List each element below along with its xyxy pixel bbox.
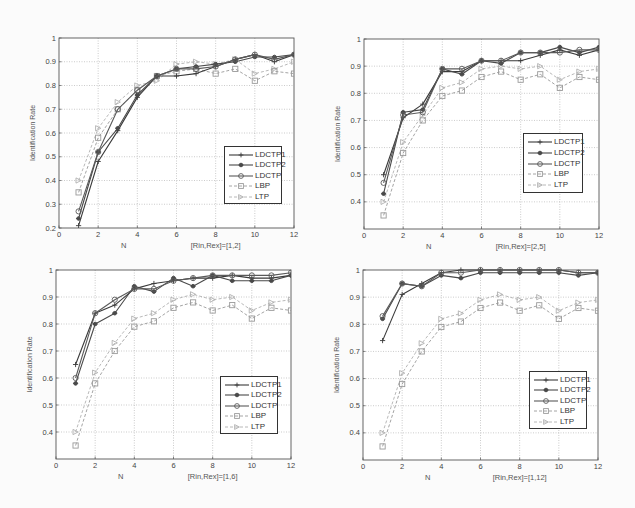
svg-text:6: 6 <box>479 231 483 240</box>
legend-label: LTP <box>251 421 265 433</box>
svg-text:10: 10 <box>251 230 259 239</box>
y-axis-label: Identification Rate <box>333 337 340 393</box>
svg-text:0: 0 <box>362 231 366 240</box>
chart-subtitle: [Rin,Rex]=[1,6] <box>188 472 238 481</box>
svg-text:0.7: 0.7 <box>351 116 361 125</box>
svg-text:0.5: 0.5 <box>351 170 361 179</box>
svg-text:10: 10 <box>556 231 564 240</box>
svg-text:4: 4 <box>135 230 139 239</box>
svg-text:0.5: 0.5 <box>350 401 360 410</box>
legend-item-ltp: LTP <box>530 416 586 428</box>
svg-text:8: 8 <box>518 462 522 471</box>
svg-text:4: 4 <box>132 461 136 470</box>
svg-text:2: 2 <box>401 231 405 240</box>
svg-text:0: 0 <box>54 461 58 470</box>
svg-text:0.2: 0.2 <box>46 224 56 233</box>
chart-subtitle: [Rin,Rex]=[1,12] <box>493 473 547 482</box>
legend-label: LTP <box>554 179 568 191</box>
triangle-marker-icon <box>532 416 560 428</box>
svg-text:12: 12 <box>594 462 602 471</box>
svg-text:0.8: 0.8 <box>351 89 361 98</box>
svg-text:2: 2 <box>93 461 97 470</box>
svg-text:2: 2 <box>96 230 100 239</box>
chart-panel-1: 0246810120.20.30.40.50.60.70.80.91Identi… <box>0 0 317 254</box>
chart-panel-2: 0246810120.40.50.60.70.80.91Identificati… <box>317 0 634 254</box>
svg-text:0.5: 0.5 <box>46 152 56 161</box>
chart-legend: LDCTP1LDCTP2LDCTPLBPLTP <box>529 371 587 429</box>
chart-legend: LDCTP1LDCTP2LDCTPLBPLTP <box>220 376 278 434</box>
chart-legend: LDCTP1LDCTP2LDCTPLBPLTP <box>523 133 583 193</box>
svg-text:4: 4 <box>439 462 443 471</box>
chart-subtitle: [Rin,Rex]=[2,5] <box>496 242 546 251</box>
svg-text:10: 10 <box>555 462 563 471</box>
svg-text:0.6: 0.6 <box>43 374 53 383</box>
x-axis-label: N <box>121 241 126 250</box>
chart-plot: 0246810120.20.30.40.50.60.70.80.91Identi… <box>0 0 317 254</box>
svg-text:1: 1 <box>52 34 56 43</box>
y-axis-label: Identification Rate <box>26 336 33 392</box>
chart-legend: LDCTP1LDCTP2LDCTPLBPLTP <box>224 146 282 204</box>
chart-plot: 0246810120.40.50.60.70.80.91Identificati… <box>317 0 634 254</box>
legend-item-ltp: LTP <box>524 179 582 191</box>
svg-text:0.9: 0.9 <box>351 62 361 71</box>
svg-text:2: 2 <box>400 462 404 471</box>
chart-subtitle: [Rin,Rex]=[1,2] <box>191 241 241 250</box>
svg-text:0.9: 0.9 <box>43 293 53 302</box>
x-axis-label: N <box>426 242 431 251</box>
svg-text:12: 12 <box>287 461 295 470</box>
x-axis-label: N <box>118 472 123 481</box>
svg-text:0.4: 0.4 <box>46 176 56 185</box>
svg-text:0.3: 0.3 <box>46 200 56 209</box>
triangle-marker-icon <box>223 421 251 433</box>
svg-text:0.9: 0.9 <box>46 57 56 66</box>
svg-text:0.5: 0.5 <box>43 401 53 410</box>
triangle-marker-icon <box>227 191 255 203</box>
chart-panel-3: 0246810120.40.50.60.70.80.91Identificati… <box>0 254 317 508</box>
svg-text:1: 1 <box>49 266 53 275</box>
svg-text:0.4: 0.4 <box>350 428 360 437</box>
y-axis-label: Identification Rate <box>29 105 36 161</box>
svg-text:0.8: 0.8 <box>350 320 360 329</box>
svg-text:6: 6 <box>478 462 482 471</box>
svg-text:6: 6 <box>174 230 178 239</box>
svg-text:0.6: 0.6 <box>351 143 361 152</box>
legend-label: LTP <box>255 191 269 203</box>
svg-text:6: 6 <box>171 461 175 470</box>
svg-text:12: 12 <box>290 230 298 239</box>
svg-text:1: 1 <box>357 35 361 44</box>
svg-text:12: 12 <box>595 231 603 240</box>
svg-text:4: 4 <box>440 231 444 240</box>
svg-text:0.4: 0.4 <box>43 428 53 437</box>
svg-text:0.8: 0.8 <box>46 81 56 90</box>
svg-text:0.6: 0.6 <box>46 129 56 138</box>
svg-text:0.4: 0.4 <box>351 197 361 206</box>
x-axis-label: N <box>425 473 430 482</box>
svg-text:8: 8 <box>211 461 215 470</box>
svg-text:0: 0 <box>57 230 61 239</box>
legend-label: LTP <box>560 416 574 428</box>
svg-text:0.7: 0.7 <box>46 105 56 114</box>
svg-text:0.7: 0.7 <box>43 347 53 356</box>
svg-text:0.7: 0.7 <box>350 347 360 356</box>
legend-item-ltp: LTP <box>225 191 281 203</box>
chart-panel-4: 0246810120.40.50.60.70.80.91Identificati… <box>317 254 634 508</box>
legend-item-ltp: LTP <box>221 421 277 433</box>
svg-text:8: 8 <box>214 230 218 239</box>
svg-text:0.9: 0.9 <box>350 293 360 302</box>
svg-text:0.8: 0.8 <box>43 320 53 329</box>
y-axis-label: Identification Rate <box>334 106 341 162</box>
svg-text:0: 0 <box>361 462 365 471</box>
svg-text:0.6: 0.6 <box>350 374 360 383</box>
svg-text:1: 1 <box>356 266 360 275</box>
svg-text:8: 8 <box>519 231 523 240</box>
svg-text:10: 10 <box>248 461 256 470</box>
triangle-marker-icon <box>526 179 554 191</box>
